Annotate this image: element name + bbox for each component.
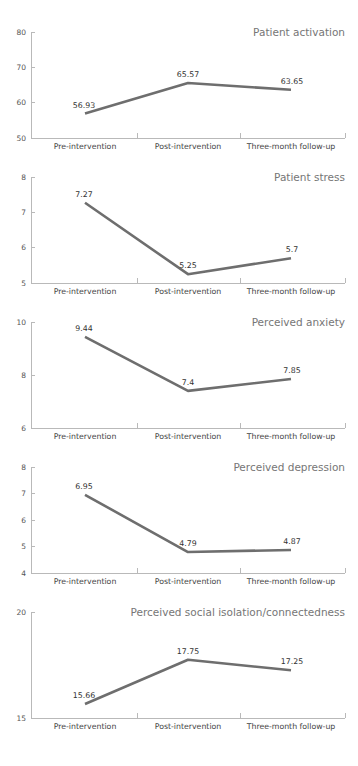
data-point-value-label: 56.93 (73, 101, 95, 110)
y-tick-label: 5 (21, 279, 26, 288)
y-tick-label: 6 (21, 424, 26, 433)
data-point-value-label: 7.4 (182, 378, 194, 387)
data-point-value-label: 4.87 (283, 537, 300, 546)
y-tick-label: 70 (16, 63, 26, 72)
x-category-label: Post-intervention (155, 287, 222, 296)
data-series-line (85, 83, 291, 114)
chart-panel: 5060708056.9365.5763.65Pre-interventionP… (0, 22, 358, 167)
multi-panel-line-chart-figure: 5060708056.9365.5763.65Pre-interventionP… (0, 0, 358, 766)
chart-panel: 152015.6617.7517.25Pre-interventionPost-… (0, 602, 358, 747)
data-point-value-label: 5.7 (286, 245, 298, 254)
y-tick-label: 4 (21, 569, 26, 578)
y-tick-label: 8 (21, 371, 26, 380)
data-point-value-label: 4.79 (179, 539, 196, 548)
data-point-value-label: 17.25 (281, 657, 303, 666)
y-tick-label: 20 (16, 608, 26, 617)
x-category-label: Pre-intervention (54, 432, 117, 441)
y-tick-label: 5 (21, 542, 26, 551)
x-category-label: Three-month follow-up (246, 577, 336, 586)
y-tick-label: 6 (21, 243, 26, 252)
data-point-value-label: 7.85 (283, 366, 300, 375)
chart-panel: 56787.275.255.7Pre-interventionPost-inte… (0, 167, 358, 312)
y-tick-label: 8 (21, 463, 26, 472)
y-tick-label: 7 (21, 489, 26, 498)
y-tick-label: 7 (21, 208, 26, 217)
data-point-value-label: 6.95 (75, 482, 92, 491)
x-category-label: Post-intervention (155, 142, 222, 151)
x-category-label: Post-intervention (155, 432, 222, 441)
data-point-value-label: 5.25 (179, 261, 196, 270)
chart-title: Patient stress (274, 171, 345, 183)
y-tick-label: 50 (16, 134, 26, 143)
x-category-label: Pre-intervention (54, 722, 117, 731)
y-tick-label: 80 (16, 28, 26, 37)
chart-title: Perceived depression (233, 461, 345, 473)
data-point-value-label: 15.66 (73, 691, 95, 700)
x-category-label: Three-month follow-up (246, 142, 336, 151)
y-tick-label: 15 (16, 714, 26, 723)
chart-title: Perceived social isolation/connectedness (131, 606, 345, 618)
x-category-label: Post-intervention (155, 577, 222, 586)
data-point-value-label: 65.57 (177, 70, 199, 79)
data-point-value-label: 17.75 (177, 647, 199, 656)
x-category-label: Post-intervention (155, 722, 222, 731)
data-point-value-label: 7.27 (75, 190, 92, 199)
x-category-label: Pre-intervention (54, 577, 117, 586)
x-category-label: Three-month follow-up (246, 287, 336, 296)
data-point-value-label: 9.44 (75, 324, 92, 333)
y-tick-label: 6 (21, 516, 26, 525)
chart-panel: 68109.447.47.85Pre-interventionPost-inte… (0, 312, 358, 457)
x-category-label: Pre-intervention (54, 287, 117, 296)
x-category-label: Three-month follow-up (246, 432, 336, 441)
chart-title: Patient activation (253, 26, 345, 38)
x-category-label: Three-month follow-up (246, 722, 336, 731)
x-category-label: Pre-intervention (54, 142, 117, 151)
data-series-line (85, 660, 291, 704)
chart-panel: 456786.954.794.87Pre-interventionPost-in… (0, 457, 358, 602)
chart-title: Perceived anxiety (252, 316, 345, 328)
y-tick-label: 10 (16, 318, 26, 327)
data-point-value-label: 63.65 (281, 77, 303, 86)
y-tick-label: 8 (21, 173, 26, 182)
y-tick-label: 60 (16, 98, 26, 107)
